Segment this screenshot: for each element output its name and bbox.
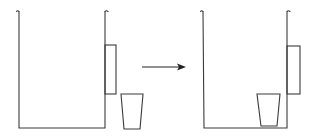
cup-after xyxy=(257,94,280,126)
after-panel xyxy=(201,11,301,128)
diagram-svg xyxy=(0,0,314,137)
side-box-after xyxy=(287,46,300,94)
cup-before xyxy=(121,94,143,129)
container-after xyxy=(201,11,291,128)
container-left-wall-hook xyxy=(201,11,204,12)
container-before xyxy=(17,11,109,128)
container-right-wall-hook xyxy=(105,11,108,12)
container-walls xyxy=(203,12,287,129)
before-panel xyxy=(17,11,144,129)
transition-arrow xyxy=(142,64,186,71)
diagram-canvas xyxy=(0,0,314,137)
container-right-wall-hook xyxy=(287,11,290,12)
container-left-wall-hook xyxy=(17,11,20,12)
container-walls xyxy=(19,12,105,129)
side-box-before xyxy=(105,45,116,94)
